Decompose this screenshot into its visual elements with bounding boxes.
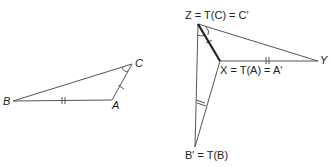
angle-arc-c [122,67,128,72]
label-x: X = T(A) = A′ [220,65,282,76]
diagram-canvas [0,0,333,167]
label-y: Y [320,55,327,66]
tick-mark-xbprime-2 [197,103,206,106]
label-c: C [135,58,143,69]
triangle-abc [13,64,132,104]
label-bprime: B′ = T(B) [185,150,228,161]
triangle-zxy [195,24,318,147]
segment-zbprime [195,24,198,147]
label-a: A [112,100,119,111]
angle-arc-z-1 [206,27,209,35]
label-z: Z = T(C) = C′ [185,10,249,21]
tick-mark-xbprime-1 [196,100,205,103]
label-b: B [3,96,10,107]
